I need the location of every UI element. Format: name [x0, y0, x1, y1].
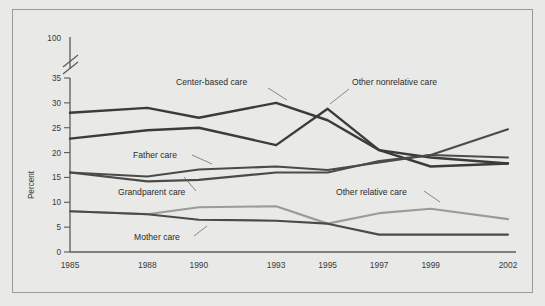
x-tick-label: 2002: [499, 260, 518, 270]
x-tick-label: 1985: [61, 260, 80, 270]
series-label-grandparent: Grandparent care: [118, 187, 186, 197]
leader-line-mother: [194, 226, 207, 236]
x-tick-label: 1990: [190, 260, 209, 270]
x-tick-label: 1997: [370, 260, 389, 270]
series-label-center: Center-based care: [176, 77, 247, 87]
x-tick-label: 1988: [138, 260, 157, 270]
y-tick-label: 35: [52, 74, 62, 83]
y-tick-label: 10: [52, 198, 62, 207]
series-label-relative: Other relative care: [336, 187, 407, 197]
y-tick-label: 30: [52, 99, 62, 108]
leader-line-relative: [424, 191, 440, 202]
series-label-mother: Mother care: [134, 232, 180, 242]
series-group: [70, 103, 508, 235]
y-tick-label: 0: [56, 248, 61, 257]
leader-line-center: [268, 88, 287, 100]
y-tick-label: 20: [52, 149, 62, 158]
y-tick-label: 25: [52, 124, 62, 133]
y-tick-label: 5: [56, 223, 61, 232]
line-chart: 05101520253035100Percent1985198819901993…: [0, 0, 545, 306]
x-tick-label: 1993: [267, 260, 286, 270]
series-label-father: Father care: [133, 150, 177, 160]
chart-canvas: 05101520253035100Percent1985198819901993…: [0, 0, 545, 306]
series-label-nonrelative: Other nonrelative care: [352, 77, 437, 87]
y-axis-title: Percent: [27, 170, 36, 199]
figure-background: 05101520253035100Percent1985198819901993…: [0, 0, 545, 306]
x-tick-label: 1999: [421, 260, 440, 270]
y-tick-label-100: 100: [47, 34, 61, 43]
leader-line-father: [192, 155, 212, 164]
leader-line-nonrelative: [330, 89, 349, 104]
x-tick-label: 1995: [318, 260, 337, 270]
y-tick-label: 15: [52, 173, 62, 182]
